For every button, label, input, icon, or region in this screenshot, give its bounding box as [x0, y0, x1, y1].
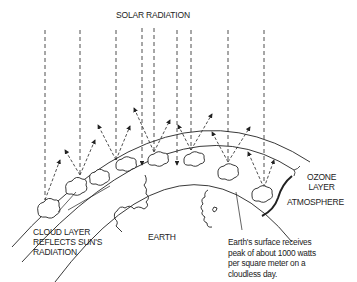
earth-label: EARTH: [148, 232, 176, 242]
cloud: [90, 169, 110, 185]
cloud: [148, 152, 169, 167]
clouds: [38, 152, 273, 218]
cloud: [66, 177, 87, 195]
solar-radiation-label: SOLAR RADIATION: [116, 10, 190, 20]
cloud: [218, 164, 239, 181]
cloud: [252, 186, 273, 203]
cloud-layer-label: CLOUD LAYER REFLECTS SUN'S RADIATION: [33, 227, 102, 257]
cloud: [116, 157, 137, 172]
coastline: [114, 175, 217, 232]
surface-leader-line: [236, 192, 242, 230]
atmosphere-label: ATMOSPHERE: [287, 197, 344, 207]
cloud-leader-line: [58, 192, 76, 212]
ozone-layer-label: OZONE LAYER: [307, 172, 336, 192]
cloud: [184, 152, 205, 167]
cloud: [38, 198, 60, 218]
ozone-bracket: [294, 166, 300, 176]
surface-note-label: Earth's surface receives peak of about 1…: [228, 237, 316, 279]
